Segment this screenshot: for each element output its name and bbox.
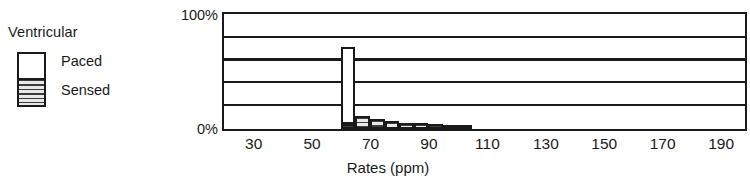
x-tick-label: 50: [304, 136, 321, 152]
x-tick-label: 110: [475, 136, 500, 152]
x-axis: 30507090110130150170190: [0, 0, 750, 184]
x-tick-label: 170: [650, 136, 676, 152]
x-tick-label: 150: [591, 136, 617, 152]
x-axis-title: Rates (ppm): [0, 160, 750, 175]
x-tick-label: 90: [420, 136, 437, 152]
x-axis-title-text: Rates (ppm): [347, 159, 430, 176]
x-tick-label: 190: [708, 136, 734, 152]
x-tick-label: 70: [362, 136, 379, 152]
ventricular-rates-histogram: 0%100% 30507090110130150170190 Rates (pp…: [0, 0, 750, 184]
x-tick-label: 30: [245, 136, 262, 152]
x-tick-label: 130: [533, 136, 559, 152]
